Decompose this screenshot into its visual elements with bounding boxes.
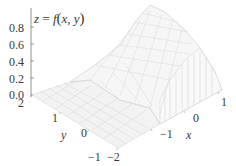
y-tick-label: 2 [18, 97, 24, 109]
z-tick-label: 0.2 [9, 73, 24, 85]
z-tick-label: 0.8 [9, 22, 24, 34]
surface-plot: z = f(x, y) 0.8 0.6 0.4 0.2 0.0 2 1 0 −1… [0, 0, 236, 166]
y-tick-label: −2 [107, 151, 120, 163]
z-tick-label: 0.4 [9, 56, 24, 68]
z-tick-label: 0.6 [9, 39, 24, 51]
chart-title: z = f(x, y) [34, 11, 85, 26]
x-tick-label: 1 [221, 96, 227, 108]
y-axis-label: y [61, 129, 66, 141]
y-tick-label: 0 [81, 127, 87, 139]
y-tick-label: −1 [88, 151, 101, 163]
x-tick-label: 0 [193, 112, 199, 124]
y-tick-label: 1 [52, 112, 58, 124]
x-tick-label: −1 [160, 128, 173, 140]
z-axis-ticks [31, 27, 34, 95]
x-axis-label: x [186, 129, 191, 141]
